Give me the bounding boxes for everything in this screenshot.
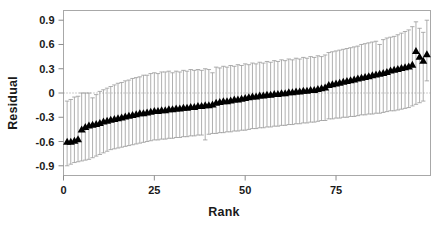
- chart-canvas: 0.90.60.30-0.3-0.6-0.90255075: [0, 0, 448, 228]
- y-tick-label: 0.3: [39, 63, 54, 75]
- data-point-marker: [412, 47, 420, 54]
- residual-rank-chart: 0.90.60.30-0.3-0.6-0.90255075 Residual R…: [0, 0, 448, 228]
- x-tick-label: 75: [330, 184, 342, 196]
- x-tick-label: 25: [148, 184, 160, 196]
- y-axis-ticks: 0.90.60.30-0.3-0.6-0.9: [36, 14, 64, 172]
- y-axis-title: Residual: [6, 68, 20, 138]
- y-tick-label: 0.6: [39, 38, 54, 50]
- y-tick-label: 0: [48, 87, 54, 99]
- x-tick-label: 0: [60, 184, 66, 196]
- x-axis-ticks: 0255075: [60, 176, 342, 196]
- y-tick-label: -0.6: [36, 136, 55, 148]
- y-tick-label: 0.9: [39, 14, 54, 26]
- y-tick-label: -0.3: [36, 111, 55, 123]
- x-tick-label: 50: [239, 184, 251, 196]
- y-tick-label: -0.9: [36, 160, 55, 172]
- x-axis-title: Rank: [0, 205, 448, 219]
- data-point-marker: [423, 50, 431, 57]
